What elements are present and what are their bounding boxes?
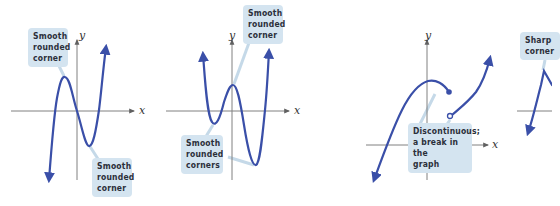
sharp-corner-curve [528, 71, 552, 133]
open-endpoint [448, 114, 453, 119]
callout-discontinuous: Discontinuous; a break in the graph [408, 123, 472, 173]
x-axis-label: x [139, 105, 145, 116]
y-axis-label: y [229, 30, 235, 41]
leader-line [543, 60, 545, 70]
callout-smooth-rounded-corner-max: Smooth rounded corner [28, 28, 68, 67]
x-axis-label: x [492, 139, 498, 150]
right-curve-piece [452, 58, 490, 115]
leader-line [234, 40, 250, 84]
callout-smooth-rounded-corner: Smooth rounded corner [243, 5, 283, 44]
callout-smooth-rounded-corners: Smooth rounded corners [181, 135, 223, 174]
callout-sharp-corner: Sharp corner [520, 32, 560, 60]
closed-endpoint [446, 89, 452, 95]
y-axis-label: y [79, 30, 85, 41]
callout-smooth-rounded-corner-min: Smooth rounded corner [92, 158, 132, 197]
panel-4 [517, 60, 552, 133]
y-axis-label: y [425, 30, 431, 41]
x-axis-label: x [294, 105, 300, 116]
